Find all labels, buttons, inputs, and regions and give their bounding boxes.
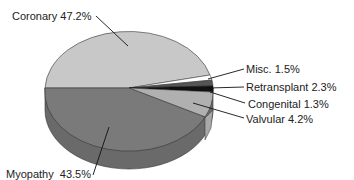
label-retransplant: Retransplant 2.3% [246, 81, 337, 93]
leader-misc [208, 69, 244, 79]
label-coronary: Coronary 47.2% [12, 10, 92, 22]
leader-congenital [210, 92, 245, 103]
pie-chart: Coronary 47.2% Misc. 1.5% Retransplant 2… [0, 0, 354, 180]
label-myopathy: Myopathy 43.5% [6, 168, 91, 180]
leader-retransplant [209, 87, 244, 88]
label-valvular: Valvular 4.2% [246, 113, 313, 125]
label-congenital: Congenital 1.3% [248, 98, 329, 110]
label-misc: Misc. 1.5% [246, 63, 300, 75]
